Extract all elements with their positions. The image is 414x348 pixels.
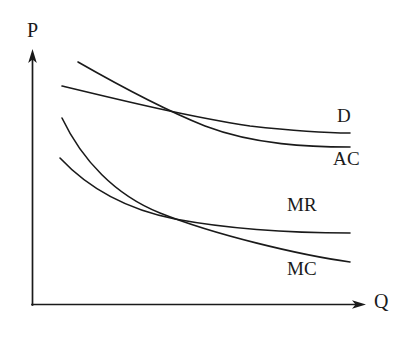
economics-diagram: P Q D AC MR MC [0,0,414,348]
curve-label-average-cost: AC [333,149,360,168]
y-axis-label: P [27,21,38,40]
curve-label-marginal-cost: MC [287,259,317,278]
diagram-canvas [0,0,414,348]
x-axis [32,300,366,309]
curve-label-marginal-revenue: MR [287,195,317,214]
x-axis-label: Q [374,292,389,311]
curve-marginal-cost [62,118,350,262]
curve-label-demand: D [337,106,351,125]
y-axis [28,49,37,305]
curve-average-cost [78,62,350,147]
